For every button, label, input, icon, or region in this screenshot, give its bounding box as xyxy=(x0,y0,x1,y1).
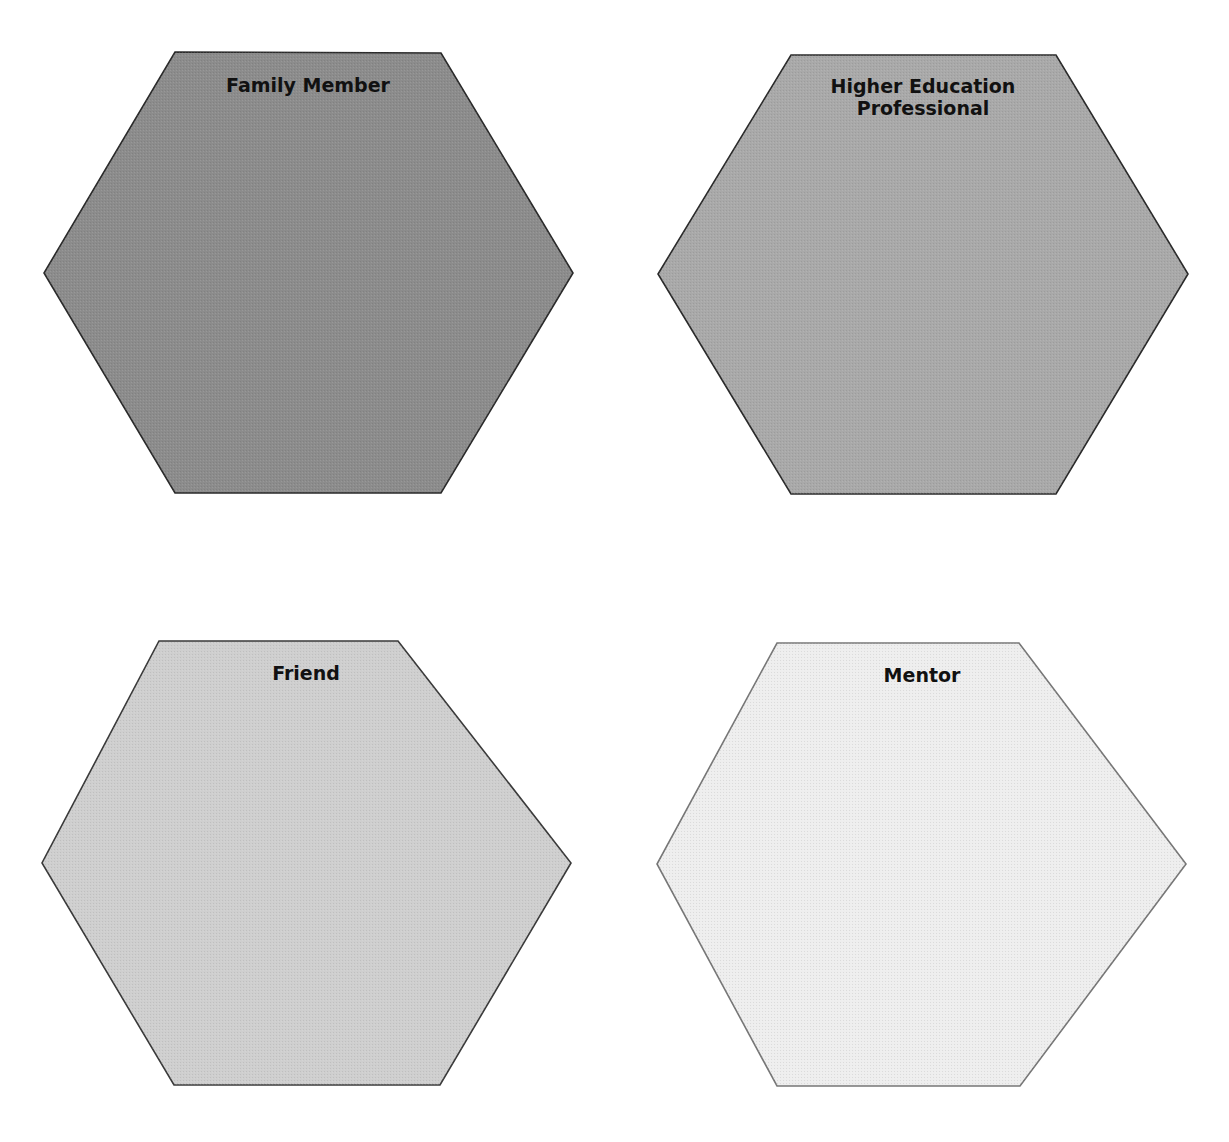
hexagon-friend xyxy=(42,641,571,1085)
hexagon-texture xyxy=(657,643,1186,1086)
hexagon-texture xyxy=(42,641,571,1085)
hexagon-texture xyxy=(658,55,1188,494)
hexagon-texture xyxy=(44,52,573,493)
hexagon-label-mentor: Mentor xyxy=(884,664,961,686)
hexagon-label-family-member: Family Member xyxy=(226,74,390,96)
hexagon-canvas xyxy=(0,0,1229,1142)
hexagon-label-friend: Friend xyxy=(272,662,340,684)
hexagon-diagram: Family Member Higher Education Professio… xyxy=(0,0,1229,1142)
hexagon-higher-education-professional xyxy=(658,55,1188,494)
hexagon-family-member xyxy=(44,52,573,493)
hexagon-label-higher-education-professional: Higher Education Professional xyxy=(831,75,1016,119)
hexagon-mentor xyxy=(657,643,1186,1086)
